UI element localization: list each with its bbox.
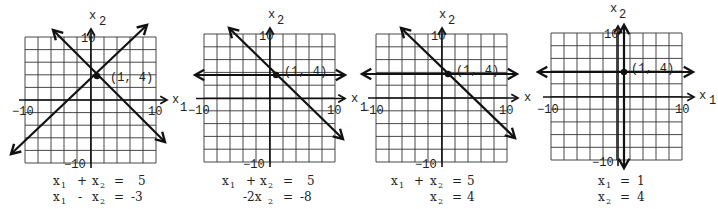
tick-y-max: 10	[259, 30, 273, 44]
equation-1: x 1 + x 2 = 5	[391, 174, 475, 190]
panel-2: (1, 4) x 2 1 x −10 10 10 −10 x 1 + x 2 =…	[180, 8, 358, 206]
svg-text:4: 4	[637, 190, 645, 204]
tick-y-max: 10	[81, 32, 95, 46]
svg-text:5: 5	[467, 174, 475, 188]
svg-text:x: x	[430, 190, 437, 204]
svg-text:-2x: -2x	[243, 190, 262, 204]
svg-text:x: x	[222, 174, 229, 188]
svg-text:x: x	[92, 174, 99, 188]
svg-text:2: 2	[268, 197, 273, 206]
panel-3: (1, 4) x 2 1 x −10 10 10 −10 x 1 + x 2 =…	[360, 8, 531, 206]
svg-text:2: 2	[438, 197, 443, 206]
equation-1: x 1 + x 2 = 5	[222, 174, 315, 190]
svg-text:2: 2	[606, 197, 611, 206]
svg-text:4: 4	[467, 190, 475, 204]
point-label: (1, 4)	[110, 71, 153, 85]
equation-1: x 1 = 1	[598, 174, 645, 190]
y-axis-label: x	[610, 2, 617, 16]
svg-text:x: x	[260, 174, 267, 188]
svg-text:-3: -3	[131, 190, 143, 204]
svg-text:x: x	[53, 174, 60, 188]
tick-y-min: −10	[592, 156, 614, 170]
svg-text:5: 5	[138, 174, 146, 188]
tick-y-max: 10	[604, 28, 618, 42]
tick-x-max: 10	[148, 105, 162, 119]
svg-text:5: 5	[307, 174, 315, 188]
linear-systems-figure: (1, 4) x 2 x −10 10 10 −10 x 1 + x 2 = 5…	[0, 0, 718, 209]
svg-text:1: 1	[399, 181, 404, 190]
tick-x-min: −10	[362, 104, 384, 118]
equation-1: x 1 + x 2 = 5	[53, 174, 146, 190]
tick-x-min: −10	[537, 103, 559, 117]
y-axis-subscript: 2	[277, 14, 284, 28]
tick-x-max: 10	[327, 104, 341, 118]
svg-text:=: =	[283, 190, 293, 204]
svg-text:+: +	[414, 174, 424, 188]
svg-text:=: =	[452, 190, 462, 204]
svg-text:+: +	[77, 174, 87, 188]
svg-text:=: =	[283, 174, 293, 188]
equation-2: x 2 = 4	[598, 190, 645, 206]
svg-text:1: 1	[230, 181, 235, 190]
y-axis-label: x	[268, 8, 275, 22]
equation-2: x 1 - x 2 = -3	[53, 190, 143, 206]
svg-text:-8: -8	[300, 190, 312, 204]
panel-1: (1, 4) x 2 x −10 10 10 −10 x 1 + x 2 = 5…	[11, 9, 179, 206]
svg-text:1: 1	[637, 174, 645, 188]
line-x1-plus-x2-eq-5	[229, 28, 343, 139]
svg-text:-: -	[78, 190, 82, 204]
svg-text:=: =	[114, 190, 124, 204]
svg-text:2: 2	[438, 181, 443, 190]
panel-4: (1, 4) x 2 x 1 −10 10 10 −10 x 1 = 1 x 2…	[537, 2, 716, 206]
svg-text:1: 1	[606, 181, 611, 190]
svg-text:x: x	[598, 190, 605, 204]
y-axis-label: x	[439, 8, 446, 22]
svg-text:x: x	[430, 174, 437, 188]
line-x1-plus-x2-eq-5	[401, 28, 515, 138]
point-label: (1, 4)	[631, 62, 674, 76]
intersection-point	[94, 73, 100, 79]
svg-text:1: 1	[61, 197, 66, 206]
svg-text:x: x	[391, 174, 398, 188]
x-axis-subscript-prev: 1	[180, 101, 187, 115]
point-label: (1, 4)	[456, 64, 499, 78]
x-axis-label: x	[524, 91, 531, 105]
svg-text:=: =	[114, 174, 124, 188]
x-axis-label: x	[172, 93, 179, 107]
equation-2: x 2 = 4	[430, 190, 475, 206]
svg-text:2: 2	[100, 181, 105, 190]
tick-x-min: −10	[12, 105, 34, 119]
y-axis-label: x	[89, 9, 96, 23]
tick-y-min: −10	[243, 158, 265, 172]
svg-text:=: =	[620, 174, 630, 188]
svg-text:=: =	[620, 190, 630, 204]
x-axis-subscript: 1	[709, 94, 716, 108]
x-axis-label: x	[351, 92, 358, 106]
tick-y-min: −10	[64, 158, 86, 172]
svg-text:=: =	[452, 174, 462, 188]
svg-text:2: 2	[100, 197, 105, 206]
intersection-point	[445, 71, 451, 77]
svg-text:x: x	[92, 190, 99, 204]
svg-text:x: x	[598, 174, 605, 188]
tick-x-max: 10	[499, 104, 513, 118]
y-axis-subscript: 2	[619, 8, 626, 22]
svg-text:+: +	[246, 174, 256, 188]
line-x1-minus-x2-eq-neg3	[11, 25, 147, 154]
tick-y-min: −10	[415, 158, 437, 172]
x-axis-label: x	[699, 89, 706, 103]
equation-2: -2x 2 = -8	[243, 190, 312, 206]
intersection-point	[273, 72, 279, 78]
y-axis-subscript: 2	[99, 15, 106, 29]
svg-text:x: x	[53, 190, 60, 204]
intersection-point	[621, 69, 627, 75]
tick-x-max: 10	[675, 103, 689, 117]
point-label: (1, 4)	[284, 65, 327, 79]
tick-x-min: −10	[188, 104, 210, 118]
y-axis-subscript: 2	[448, 14, 455, 28]
tick-y-max: 10	[431, 30, 445, 44]
svg-text:1: 1	[61, 181, 66, 190]
svg-text:2: 2	[268, 181, 273, 190]
